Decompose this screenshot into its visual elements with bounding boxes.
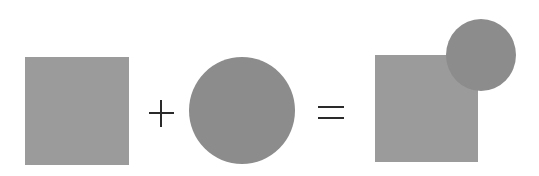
equals-top-stroke bbox=[318, 106, 344, 108]
operand-square bbox=[25, 57, 129, 165]
operand-circle bbox=[189, 57, 295, 164]
result-circle bbox=[446, 19, 516, 91]
plus-vertical-stroke bbox=[160, 100, 162, 127]
equals-bottom-stroke bbox=[318, 117, 344, 119]
